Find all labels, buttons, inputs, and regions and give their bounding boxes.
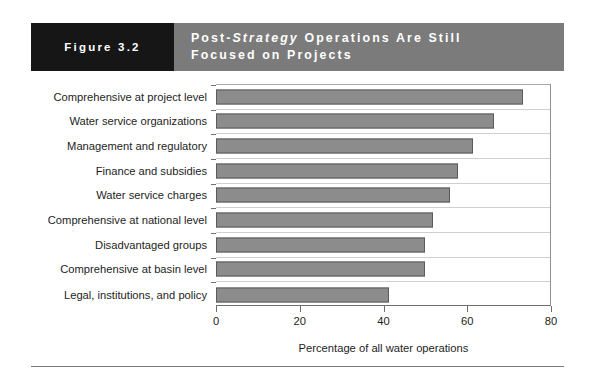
figure-number-box: Figure 3.2 — [31, 23, 174, 71]
figure-header-band: Figure 3.2 Post-Strategy Operations Are … — [31, 23, 564, 71]
chart-category-row: Comprehensive at project level — [216, 85, 550, 110]
chart-bar — [216, 89, 523, 104]
chart-bar — [216, 237, 425, 252]
x-axis-tick — [551, 306, 552, 312]
y-axis-tick-label: Finance and subsidies — [96, 165, 207, 177]
x-axis-tick — [300, 306, 301, 312]
y-axis-tick — [211, 233, 216, 234]
x-axis-tick-label: 0 — [213, 315, 219, 327]
y-axis-tick-label: Comprehensive at basin level — [60, 263, 207, 275]
bar-chart: Comprehensive at project levelWater serv… — [0, 80, 594, 320]
y-axis-tick — [211, 282, 216, 283]
x-axis-tick-label: 20 — [294, 315, 306, 327]
footer-divider — [31, 366, 564, 367]
y-axis-tick — [211, 134, 216, 135]
y-axis-tick — [211, 85, 216, 86]
chart-bar — [216, 114, 494, 129]
chart-category-row: Management and regulatory — [216, 134, 550, 159]
figure-title-suffix: Operations Are Still — [299, 31, 462, 45]
x-axis-tick — [216, 306, 217, 312]
chart-category-row: Finance and subsidies — [216, 159, 550, 184]
x-axis-tick-label: 80 — [545, 315, 557, 327]
y-axis-tick — [211, 258, 216, 259]
figure-title-prefix: Post- — [191, 31, 232, 45]
y-axis-tick-label: Management and regulatory — [67, 140, 207, 152]
chart-category-row: Water service organizations — [216, 110, 550, 135]
x-axis-tick-label: 60 — [461, 315, 473, 327]
chart-bar — [216, 213, 433, 228]
chart-bar — [216, 163, 458, 178]
x-axis-title: Percentage of all water operations — [216, 342, 551, 354]
y-axis-tick-label: Comprehensive at project level — [53, 91, 207, 103]
chart-category-row: Comprehensive at national level — [216, 208, 550, 233]
chart-category-row: Legal, institutions, and policy — [216, 282, 550, 307]
x-axis-tick — [384, 306, 385, 312]
x-axis-tick-label: 40 — [377, 315, 389, 327]
x-axis: 020406080 — [216, 306, 551, 346]
chart-bar — [216, 188, 450, 203]
y-axis-tick — [211, 110, 216, 111]
y-axis-tick-label: Water service charges — [96, 189, 207, 201]
plot-area: Comprehensive at project levelWater serv… — [216, 84, 551, 306]
y-axis-tick — [211, 184, 216, 185]
figure-title-box: Post-Strategy Operations Are Still Focus… — [174, 23, 564, 71]
chart-bar — [216, 287, 389, 302]
y-axis-tick-label: Disadvantaged groups — [95, 239, 207, 251]
chart-category-row: Comprehensive at basin level — [216, 258, 550, 283]
chart-bar — [216, 139, 473, 154]
y-axis-tick — [211, 159, 216, 160]
y-axis-tick — [211, 208, 216, 209]
x-axis-tick — [467, 306, 468, 312]
figure-title-italic-word: Strategy — [232, 31, 298, 45]
chart-category-row: Disadvantaged groups — [216, 233, 550, 258]
y-axis-tick-label: Water service organizations — [69, 115, 207, 127]
chart-category-row: Water service charges — [216, 184, 550, 209]
figure-title-line-2: Focused on Projects — [191, 47, 564, 64]
y-axis-tick-label: Legal, institutions, and policy — [64, 289, 207, 301]
chart-bar — [216, 262, 425, 277]
y-axis-tick-label: Comprehensive at national level — [48, 214, 207, 226]
figure-title-line-1: Post-Strategy Operations Are Still — [191, 30, 564, 47]
figure-number-label: Figure 3.2 — [64, 41, 140, 53]
